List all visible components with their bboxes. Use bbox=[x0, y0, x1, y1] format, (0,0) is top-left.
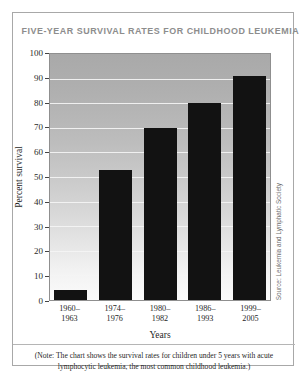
x-axis-tick-label-line: 1960– bbox=[53, 304, 86, 314]
x-axis-tick-label-line: 1993 bbox=[189, 314, 222, 324]
y-axis-tick bbox=[45, 301, 49, 302]
y-axis-tick-label: 90 bbox=[34, 73, 43, 83]
y-axis-tick-label: 20 bbox=[34, 246, 43, 256]
source-credit: Source: Leukemia and Lymphatic Society bbox=[275, 183, 282, 300]
y-axis-tick-label: 50 bbox=[34, 172, 43, 182]
plot-area-wrapper: Percent survival 0102030405060708090100 bbox=[49, 53, 271, 301]
y-axis-tick-label: 40 bbox=[34, 197, 43, 207]
bar bbox=[144, 128, 177, 300]
x-axis-tick-label: 1974–1976 bbox=[98, 304, 131, 325]
x-axis-tick-label: 1986–1993 bbox=[189, 304, 222, 325]
x-axis-tick-label-line: 2005 bbox=[234, 314, 267, 324]
chart-title: FIVE-YEAR SURVIVAL RATES FOR CHILDHOOD L… bbox=[21, 25, 286, 36]
x-axis-title: Years bbox=[49, 330, 271, 340]
bar bbox=[99, 170, 132, 300]
x-axis-tick-label-line: 1974– bbox=[98, 304, 131, 314]
bar bbox=[188, 103, 221, 300]
x-axis-tick-label-line: 1986– bbox=[189, 304, 222, 314]
x-axis-tick-label-line: 1976 bbox=[98, 314, 131, 324]
x-axis-tick-label-line: 1982 bbox=[144, 314, 177, 324]
y-axis-tick-label: 0 bbox=[39, 296, 44, 306]
y-axis-tick-label: 70 bbox=[34, 122, 43, 132]
note-divider bbox=[13, 344, 295, 345]
y-axis-tick-label: 80 bbox=[34, 98, 43, 108]
y-axis-tick-label: 100 bbox=[30, 48, 44, 58]
y-axis-tick-label: 10 bbox=[34, 271, 43, 281]
bar bbox=[233, 76, 266, 300]
bar bbox=[54, 290, 87, 300]
x-axis-tick-label: 1980–1982 bbox=[144, 304, 177, 325]
plot-area bbox=[49, 53, 271, 301]
chart-figure: FIVE-YEAR SURVIVAL RATES FOR CHILDHOOD L… bbox=[12, 12, 294, 366]
chart-note: (Note: The chart shows the survival rate… bbox=[21, 350, 287, 372]
x-axis-tick-label: 1999–2005 bbox=[234, 304, 267, 325]
x-axis-tick-label-line: 1980– bbox=[144, 304, 177, 314]
y-axis-title: Percent survival bbox=[14, 146, 24, 207]
x-axis-tick-labels: 1960–19631974–19761980–19821986–19931999… bbox=[49, 304, 271, 325]
x-axis-tick-label: 1960–1963 bbox=[53, 304, 86, 325]
x-axis-tick-label-line: 1963 bbox=[53, 314, 86, 324]
x-axis-tick-label-line: 1999– bbox=[234, 304, 267, 314]
bar-series bbox=[50, 54, 270, 300]
y-axis-tick-label: 30 bbox=[34, 222, 43, 232]
y-axis-tick-label: 60 bbox=[34, 147, 43, 157]
